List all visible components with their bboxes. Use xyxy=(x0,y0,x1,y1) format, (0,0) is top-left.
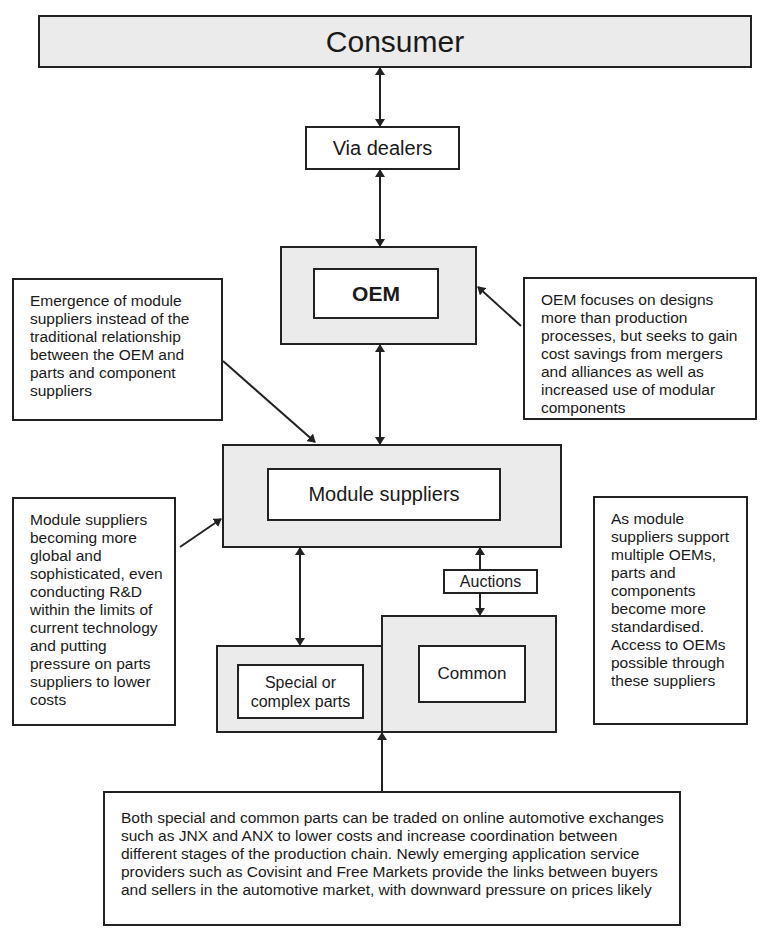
note-standardised-text: As module suppliers support multiple OEM… xyxy=(611,510,729,689)
consumer-label: Consumer xyxy=(326,25,464,59)
arrow-note-module-global xyxy=(180,519,221,547)
note-exchanges-text: Both special and common parts can be tra… xyxy=(121,809,664,898)
arrow-note-emergence xyxy=(223,361,315,442)
via-dealers-node: Via dealers xyxy=(305,126,460,170)
consumer-node: Consumer xyxy=(38,15,752,68)
note-emergence: Emergence of module suppliers instead of… xyxy=(12,278,223,421)
auctions-label: Auctions xyxy=(460,573,521,591)
note-emergence-text: Emergence of module suppliers instead of… xyxy=(30,292,189,399)
auctions-node: Auctions xyxy=(443,569,538,594)
arrow-note-oem-focus xyxy=(478,287,521,326)
note-oem-focus-text: OEM focuses on designs more than product… xyxy=(541,291,737,416)
module-suppliers-node: Module suppliers xyxy=(267,468,501,521)
common-label: Common xyxy=(438,664,507,684)
module-suppliers-label: Module suppliers xyxy=(308,483,459,506)
note-standardised: As module suppliers support multiple OEM… xyxy=(593,496,748,725)
note-module-global-text: Module suppliers becoming more global an… xyxy=(30,511,163,708)
common-node: Common xyxy=(418,645,526,703)
note-exchanges: Both special and common parts can be tra… xyxy=(103,791,681,926)
oem-node: OEM xyxy=(313,268,439,319)
special-parts-label: Special or complex parts xyxy=(251,673,351,711)
note-module-global: Module suppliers becoming more global an… xyxy=(12,497,176,726)
oem-label: OEM xyxy=(352,282,400,306)
via-dealers-label: Via dealers xyxy=(333,137,433,160)
note-oem-focus: OEM focuses on designs more than product… xyxy=(523,277,757,420)
special-parts-node: Special or complex parts xyxy=(237,664,364,719)
